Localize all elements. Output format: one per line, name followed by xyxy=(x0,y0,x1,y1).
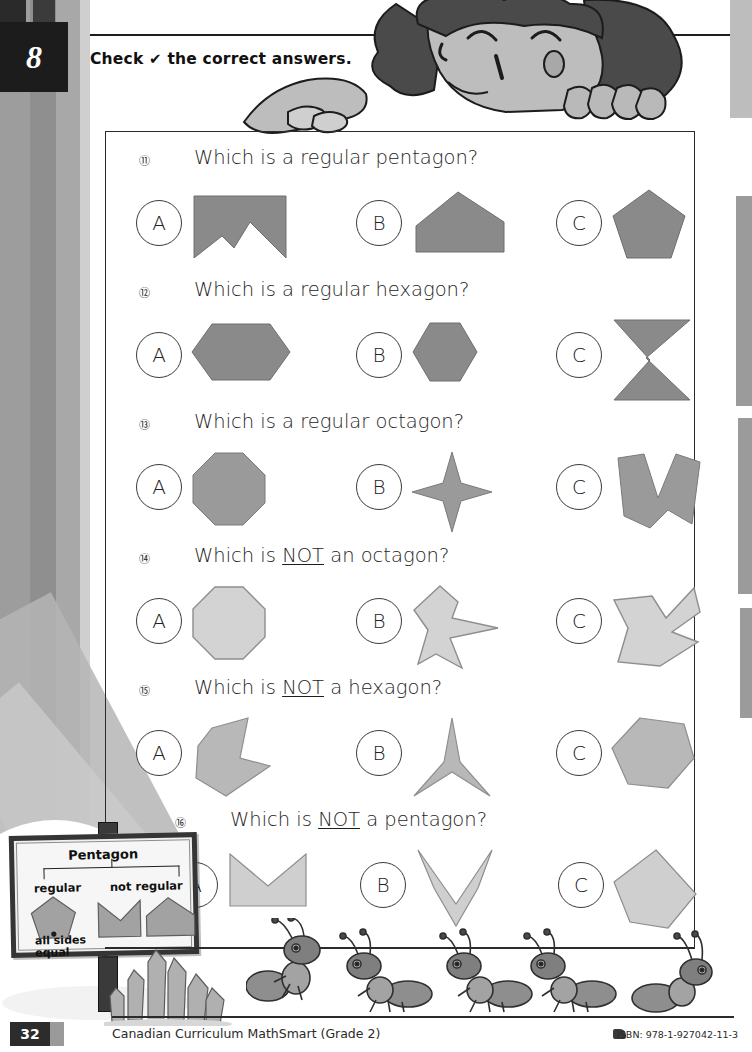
question-text-12: Which is a regular hexagon? xyxy=(194,278,469,301)
choices-12: A B C xyxy=(106,318,696,408)
option-circle-b[interactable]: B xyxy=(356,730,402,776)
chapter-number: 8 xyxy=(0,22,68,92)
shape-three-point-star xyxy=(410,716,528,806)
option-circle-c[interactable]: C xyxy=(556,332,602,378)
option-circle-b[interactable]: B xyxy=(360,862,406,908)
question-text-13: Which is a regular octagon? xyxy=(194,410,464,433)
crystal-rocks-illustration xyxy=(104,948,236,1026)
checkmark-icon: ✔ xyxy=(149,50,162,68)
shape-wide-hexagon xyxy=(190,318,308,408)
shape-regular-pentagon xyxy=(610,186,728,276)
option-circle-c[interactable]: C xyxy=(556,730,602,776)
ants-illustration xyxy=(246,918,716,1022)
question-text-16-before: Which is xyxy=(230,808,318,831)
option-circle-c[interactable]: C xyxy=(556,464,602,510)
option-circle-b[interactable]: B xyxy=(356,598,402,644)
question-text-12-before: Which is a regular hexagon? xyxy=(194,278,469,301)
footer-title: Canadian Curriculum MathSmart (Grade 2) xyxy=(112,1026,380,1041)
option-circle-c[interactable]: C xyxy=(556,200,602,246)
sign-label-regular: regular xyxy=(34,880,82,895)
page-number-box: 32 xyxy=(10,1022,50,1046)
shape-regular-hexagon xyxy=(410,318,528,408)
footer-isbn: ISBN: 978-1-927042-11-3 xyxy=(617,1029,738,1040)
question-text-14-after: an octagon? xyxy=(324,544,449,567)
choices-13: A B C xyxy=(106,450,696,540)
page-number: 32 xyxy=(20,1026,39,1042)
question-header-12: ⑫ Which is a regular hexagon? xyxy=(106,278,696,318)
right-edge-slab-1 xyxy=(736,196,752,406)
question-row-13: ⑬ Which is a regular octagon? A B xyxy=(106,410,696,540)
instruction-suffix: the correct answers. xyxy=(167,50,351,68)
choices-11: A B C xyxy=(106,186,696,276)
sign-caption: all sides equal xyxy=(35,934,86,959)
sign-inner-panel: Pentagon regular not regular all sides e… xyxy=(16,839,192,951)
question-row-11: ⑪ Which is a regular pentagon? A B xyxy=(106,146,696,276)
question-header-13: ⑬ Which is a regular octagon? xyxy=(106,410,696,450)
question-header-14: ⑭ Which is NOT an octagon? xyxy=(106,544,696,584)
option-circle-a[interactable]: A xyxy=(136,464,182,510)
option-circle-a[interactable]: A xyxy=(136,332,182,378)
option-circle-a[interactable]: A xyxy=(136,598,182,644)
question-number-14: ⑭ xyxy=(133,550,155,566)
shape-concave-hexagon xyxy=(190,716,308,806)
question-text-15-after: a hexagon? xyxy=(324,676,442,699)
footer-rule xyxy=(112,1016,734,1018)
option-circle-b[interactable]: B xyxy=(356,332,402,378)
question-number-12: ⑫ xyxy=(133,284,155,300)
question-number-13: ⑬ xyxy=(133,416,155,432)
option-circle-b[interactable]: B xyxy=(356,200,402,246)
question-row-12: ⑫ Which is a regular hexagon? A B xyxy=(106,278,696,408)
question-row-14: ⑭ Which is NOT an octagon? A B xyxy=(106,544,696,674)
cartoon-character-illustration xyxy=(356,0,696,144)
question-text-15: Which is NOT a hexagon? xyxy=(194,676,442,699)
question-text-16-after: a pentagon? xyxy=(360,808,487,831)
chapter-accent-block-left xyxy=(0,0,26,22)
right-edge-slab-3 xyxy=(740,608,752,718)
shape-concave-pentagon-notch xyxy=(190,186,308,276)
question-row-15: ⑮ Which is NOT a hexagon? A B xyxy=(106,676,696,806)
question-text-14: Which is NOT an octagon? xyxy=(194,544,449,567)
option-circle-a[interactable]: A xyxy=(136,200,182,246)
question-text-11-before: Which is a regular pentagon? xyxy=(194,146,478,169)
sign-bracket xyxy=(43,865,179,879)
question-number-15: ⑮ xyxy=(133,682,155,698)
option-circle-b[interactable]: B xyxy=(356,464,402,510)
question-header-16: ⑯ Which is NOT a pentagon? xyxy=(142,808,732,848)
sign-title: Pentagon xyxy=(17,845,189,864)
choices-14: A B C xyxy=(106,584,696,674)
instruction-text: Check ✔ the correct answers. xyxy=(90,50,352,68)
page-number-shadow xyxy=(50,1022,64,1046)
question-text-14-before: Which is xyxy=(194,544,282,567)
question-header-15: ⑮ Which is NOT a hexagon? xyxy=(106,676,696,716)
shape-tilted-hexagon xyxy=(610,716,728,806)
sign-caption-line2: equal xyxy=(35,946,70,960)
shape-zigzag-w-octagon xyxy=(610,450,728,540)
right-edge-slab-top xyxy=(730,0,752,118)
right-edge-slab-2 xyxy=(738,418,752,594)
question-text-15-emphasis: NOT xyxy=(282,676,324,699)
sign-board: Pentagon regular not regular all sides e… xyxy=(9,832,200,958)
shape-house-pentagon xyxy=(410,186,528,276)
question-text-14-emphasis: NOT xyxy=(282,544,324,567)
question-text-11: Which is a regular pentagon? xyxy=(194,146,478,169)
shape-arrow-octagon xyxy=(410,584,528,674)
option-circle-a[interactable]: A xyxy=(136,730,182,776)
question-text-15-before: Which is xyxy=(194,676,282,699)
choices-15: A B C xyxy=(106,716,696,806)
question-text-16-emphasis: NOT xyxy=(318,808,360,831)
chapter-accent-block-right xyxy=(33,0,55,22)
question-text-16: Which is NOT a pentagon? xyxy=(230,808,487,831)
question-header-11: ⑪ Which is a regular pentagon? xyxy=(106,146,696,186)
option-circle-c[interactable]: C xyxy=(556,598,602,644)
option-circle-c[interactable]: C xyxy=(558,862,604,908)
shape-regular-octagon xyxy=(190,584,308,674)
shape-regular-octagon xyxy=(190,450,308,540)
instruction-prefix: Check xyxy=(90,50,143,68)
chapter-number-block: 8 xyxy=(0,22,68,92)
pointing-hand-illustration xyxy=(240,72,370,138)
question-text-13-before: Which is a regular octagon? xyxy=(194,410,464,433)
shape-check-octagon xyxy=(610,584,728,674)
shape-bowtie-hexagon xyxy=(610,318,728,408)
question-number-11: ⑪ xyxy=(133,152,155,168)
shape-four-point-star xyxy=(410,450,528,540)
